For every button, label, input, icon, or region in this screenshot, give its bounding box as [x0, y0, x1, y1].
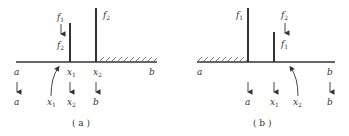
label-f1-top-a: f1	[56, 12, 64, 23]
panel-a: f1 f2 f2 a x1 x2 b a x1 x2 b ( a )	[14, 8, 157, 128]
bottom-label-b: b	[93, 97, 99, 107]
curved-arrow-icon	[291, 68, 298, 96]
curved-arrow-icon	[51, 68, 58, 96]
caption-b: ( b )	[253, 118, 272, 128]
axis-label-a-b: a	[197, 67, 202, 77]
label-f1-mid-b: f1	[280, 39, 288, 50]
axis-label-a: a	[14, 67, 19, 77]
axis-label-x1: x1	[67, 67, 76, 78]
bottom-label-x1-b: x1	[270, 97, 279, 108]
axis-label-b: b	[149, 67, 155, 77]
label-f2-top-b: f2	[280, 10, 288, 21]
bottom-label-x1: x1	[47, 97, 56, 108]
axis-label-b-b: b	[327, 67, 333, 77]
label-f1-top-b: f1	[235, 10, 243, 21]
label-f2-top-a: f2	[102, 10, 110, 21]
hatching-left	[198, 57, 248, 61]
label-f2-mid-a: f2	[56, 40, 64, 51]
caption-a: ( a )	[72, 118, 90, 128]
bottom-label-a-b: a	[245, 97, 250, 107]
hatching-right	[100, 57, 157, 61]
bottom-label-b-b: b	[327, 97, 333, 107]
diagram-canvas: f1 f2 f2 a x1 x2 b a x1 x2 b ( a )	[0, 0, 349, 136]
bottom-label-x2: x2	[67, 97, 76, 108]
axis-label-x2: x2	[93, 67, 102, 78]
panel-b: f1 f2 f1 a b a x1 x2 b ( b )	[197, 8, 335, 128]
bottom-label-x2-b: x2	[293, 97, 302, 108]
bottom-label-a: a	[14, 97, 19, 107]
